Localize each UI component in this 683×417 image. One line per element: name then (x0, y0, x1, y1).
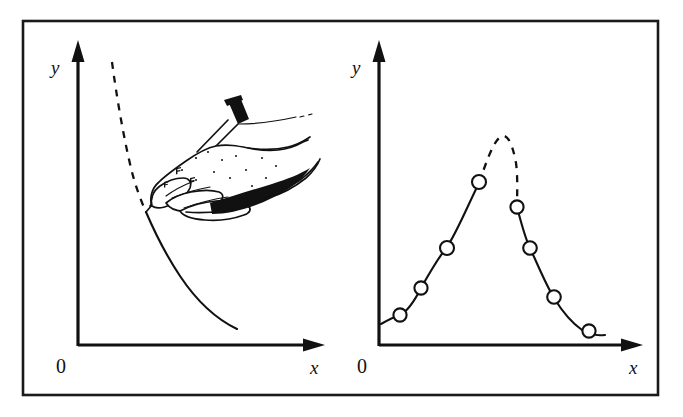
data-point (414, 281, 427, 294)
data-point (472, 175, 486, 189)
right-curve-peak-dashed (479, 136, 517, 206)
right-origin-label: 0 (357, 356, 367, 376)
left-y-axis-arrowhead (72, 40, 85, 62)
data-point (582, 324, 595, 337)
hand-with-pencil-illustration (146, 95, 320, 220)
data-point (547, 290, 561, 304)
left-x-axis (78, 339, 325, 352)
left-curve-solid (146, 212, 237, 329)
right-y-axis-label: y (352, 58, 360, 77)
left-panel (72, 40, 326, 352)
data-point (440, 241, 454, 255)
right-y-axis (373, 40, 386, 346)
figure-root: y 0 x y 0 x (0, 0, 683, 417)
left-y-axis (72, 40, 85, 346)
right-x-axis (379, 339, 643, 352)
data-point (393, 308, 406, 321)
left-x-axis-arrowhead (303, 339, 325, 352)
data-point (510, 200, 523, 213)
left-curve-dashed (112, 62, 146, 212)
right-y-axis-arrowhead (373, 40, 386, 62)
wrist-upper-edge (248, 137, 310, 149)
left-origin-label: 0 (56, 356, 66, 376)
left-y-axis-label: y (51, 58, 59, 77)
right-x-axis-label: x (629, 358, 637, 377)
right-x-axis-arrowhead (621, 339, 643, 352)
left-x-axis-label: x (310, 358, 318, 377)
pencil-point (146, 205, 152, 212)
right-curve-falling (517, 207, 605, 335)
sleeve-hint-line (300, 114, 312, 117)
figure-border (23, 21, 658, 395)
figure-canvas (0, 0, 683, 417)
data-point (523, 241, 537, 255)
right-curve-rising (381, 183, 479, 324)
right-panel (373, 40, 644, 352)
